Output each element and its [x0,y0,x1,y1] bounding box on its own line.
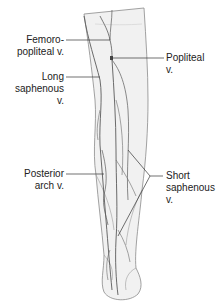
label-posterior-arch-vein: Posterior arch v. [6,168,64,192]
label-short-saphenous-vein: Short saphenous v. [166,170,219,206]
leg-veins-diagram: Femoro- popliteal v. Long saphenous v. P… [0,0,219,306]
label-popliteal-vein: Popliteal v. [166,52,218,76]
label-long-saphenous-vein: Long saphenous v. [6,71,64,107]
label-femoropopliteal-vein: Femoro- popliteal v. [6,34,64,58]
